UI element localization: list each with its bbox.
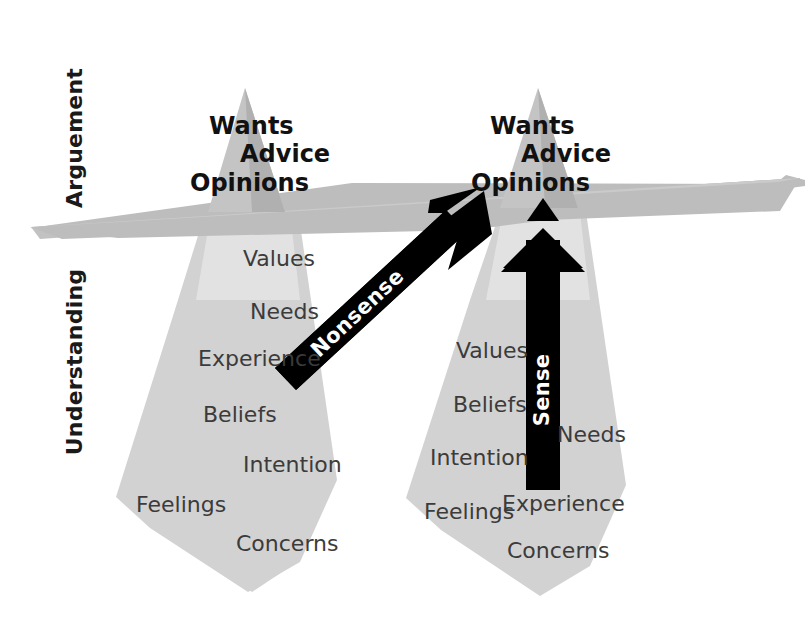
iceberg-diagram: Nonsense Sense Arguement Understanding W…: [0, 0, 805, 627]
right-deep-label-experience: Experience: [502, 491, 625, 516]
right-tip-label-advice: Advice: [521, 140, 611, 168]
left-deep-label-beliefs: Beliefs: [203, 402, 277, 427]
water-plane: [30, 175, 805, 239]
left-deep-label-values: Values: [243, 246, 315, 271]
diagram-canvas: Nonsense Sense Arguement Understanding W…: [0, 0, 805, 627]
left-deep-label-feelings: Feelings: [136, 492, 226, 517]
left-tip-labels: Wants Advice Opinions: [190, 112, 330, 197]
right-deep-label-feelings: Feelings: [424, 499, 514, 524]
left-tip-label-advice: Advice: [240, 140, 330, 168]
right-tip-label-opinions: Opinions: [471, 169, 590, 197]
left-deep-label-concerns: Concerns: [236, 531, 338, 556]
left-deep-label-experience: Experience: [198, 346, 321, 371]
axis-label-understanding: Understanding: [62, 269, 87, 455]
right-deep-label-intention: Intention: [430, 445, 529, 470]
left-tip-label-wants: Wants: [209, 112, 294, 140]
right-deep-label-needs: Needs: [557, 422, 626, 447]
nonsense-arrow-label: Nonsense: [306, 264, 409, 362]
left-deep-label-intention: Intention: [243, 452, 342, 477]
right-tip-label-wants: Wants: [490, 112, 575, 140]
left-deep-label-needs: Needs: [250, 299, 319, 324]
sense-arrow-label: Sense: [530, 354, 554, 427]
right-deep-label-beliefs: Beliefs: [453, 392, 527, 417]
right-deep-label-concerns: Concerns: [507, 538, 609, 563]
right-deep-label-values: Values: [456, 338, 528, 363]
left-tip-label-opinions: Opinions: [190, 169, 309, 197]
axis-label-arguement: Arguement: [62, 68, 87, 208]
